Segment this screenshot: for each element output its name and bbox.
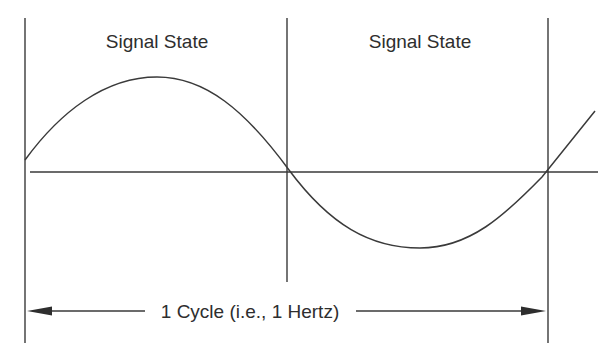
cycle-label: 1 Cycle (i.e., 1 Hertz) [161,301,339,322]
signal-state-label-left: Signal State [106,31,208,52]
signal-state-label-right: Signal State [369,31,471,52]
arrow-right-icon [521,307,546,316]
sine-cycle-diagram: Signal State Signal State 1 Cycle (i.e.,… [0,0,612,355]
arrow-left-icon [27,307,52,316]
sine-wave-curve [25,77,595,248]
